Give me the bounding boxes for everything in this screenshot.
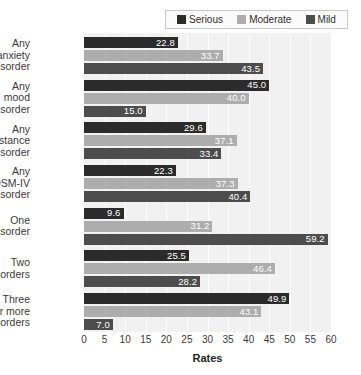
category-label-line: disorders [0, 317, 30, 329]
bar: 31.2 [84, 221, 212, 232]
category-label-6: Twodisorders [0, 257, 30, 280]
bar-value-label: 59.2 [306, 234, 325, 244]
bar-value-label: 33.7 [201, 51, 220, 61]
bar-value-label: 31.2 [191, 221, 210, 231]
bar-value-label: 37.1 [215, 136, 234, 146]
bar: 49.9 [84, 293, 289, 304]
bar: 37.1 [84, 135, 237, 146]
legend-label: Mild [318, 15, 336, 25]
legend-label: Serious [189, 15, 223, 25]
bar-value-label: 43.5 [241, 64, 260, 74]
bar-value-label: 29.6 [184, 123, 203, 133]
legend-swatch-icon [237, 15, 246, 24]
bar: 28.2 [84, 276, 200, 287]
bar: 33.4 [84, 148, 221, 159]
legend-entry-serious[interactable]: Serious [177, 15, 223, 25]
category-label-5: Onedisorder [0, 215, 30, 238]
bar: 15.0 [84, 106, 146, 117]
category-label-7: Threeor moredisorders [0, 294, 30, 329]
bar: 59.2 [84, 234, 328, 245]
bar-value-label: 9.6 [107, 208, 121, 218]
x-axis-title: Rates [84, 352, 331, 364]
bar-chart: SeriousModerateMild 22.833.743.545.040.0… [0, 0, 361, 375]
category-label-line: disorder [0, 226, 30, 238]
bar: 40.0 [84, 93, 249, 104]
bar-value-label: 40.0 [227, 93, 246, 103]
bar-value-label: 43.1 [240, 307, 259, 317]
bar: 37.3 [84, 178, 238, 189]
category-label-line: use disorder [0, 147, 30, 159]
category-label-1: Anyanxietydisorder [0, 38, 30, 73]
bar: 22.8 [84, 37, 178, 48]
bar-value-label: 33.4 [200, 149, 219, 159]
bar-value-label: 25.5 [167, 251, 186, 261]
bar: 43.1 [84, 306, 261, 317]
category-label-2: Anymooddisorder [0, 81, 30, 116]
category-label-4: AnyDSM-IVdisorder [0, 166, 30, 201]
bar-value-label: 7.0 [96, 320, 110, 330]
bar-value-label: 46.4 [253, 264, 272, 274]
chart-legend: SeriousModerateMild [165, 10, 348, 29]
bar-value-label: 28.2 [178, 277, 197, 287]
bar-value-label: 22.8 [156, 38, 175, 48]
category-label-line: disorders [0, 269, 30, 281]
category-label-line: substance [0, 135, 30, 147]
bar-value-label: 40.4 [228, 192, 247, 202]
bar-value-label: 22.3 [154, 166, 173, 176]
gridline [290, 33, 291, 332]
category-label-line: disorder [0, 104, 30, 116]
bar: 45.0 [84, 80, 269, 91]
legend-entry-mild[interactable]: Mild [306, 15, 336, 25]
bar: 25.5 [84, 250, 189, 261]
category-label-line: disorder [0, 189, 30, 201]
bar-value-label: 15.0 [124, 106, 143, 116]
bar: 33.7 [84, 50, 223, 61]
bar: 22.3 [84, 165, 176, 176]
plot-area: 22.833.743.545.040.015.029.637.133.422.3… [84, 33, 331, 332]
gridline [310, 33, 311, 332]
bar: 46.4 [84, 263, 275, 274]
x-tick-label: 60 [319, 334, 343, 345]
bar: 7.0 [84, 319, 113, 330]
bar: 40.4 [84, 191, 250, 202]
bar: 9.6 [84, 208, 124, 219]
bar: 29.6 [84, 122, 206, 133]
gridline [269, 33, 270, 332]
legend-swatch-icon [177, 15, 186, 24]
legend-entry-moderate[interactable]: Moderate [237, 15, 291, 25]
category-label-line: Any [0, 38, 30, 50]
bar-value-label: 45.0 [247, 80, 266, 90]
legend-label: Moderate [249, 15, 291, 25]
bar-value-label: 37.3 [216, 179, 235, 189]
bar-value-label: 49.9 [268, 294, 287, 304]
category-label-line: disorder [0, 61, 30, 73]
gridline [249, 33, 250, 332]
category-label-3: Anysubstanceuse disorder [0, 124, 30, 159]
bar: 43.5 [84, 63, 263, 74]
legend-swatch-icon [306, 15, 315, 24]
